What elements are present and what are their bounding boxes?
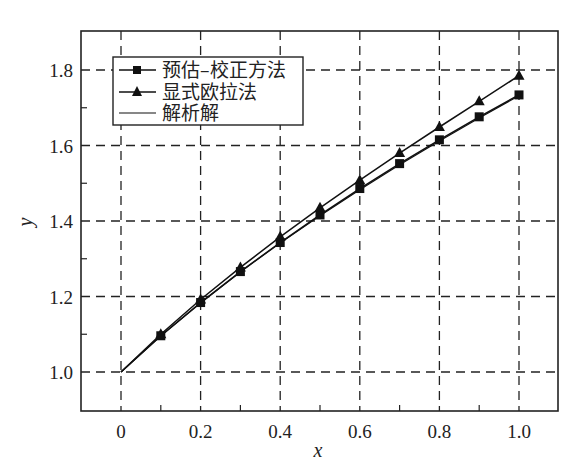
square-marker-icon — [133, 66, 141, 74]
x-tick-label: 0.8 — [428, 421, 452, 442]
legend-label: 预估–校正方法 — [162, 59, 286, 81]
x-tick-label: 1.0 — [507, 421, 531, 442]
line-chart: 00.20.40.60.81.0 1.01.21.41.61.8 x y 预估–… — [0, 0, 576, 471]
y-tick-label: 1.4 — [49, 211, 73, 232]
series-0 — [121, 90, 524, 372]
y-tick-label: 1.2 — [49, 287, 73, 308]
series-2 — [121, 96, 519, 372]
triangle-marker-icon — [394, 147, 405, 157]
y-tick-label: 1.6 — [49, 136, 73, 157]
y-tick-label: 1.8 — [49, 60, 73, 81]
triangle-marker-icon — [514, 70, 525, 80]
triangle-marker-icon — [354, 174, 365, 184]
y-tick-label: 1.0 — [49, 362, 73, 383]
x-tick-label: 0.6 — [348, 421, 372, 442]
legend-label: 解析解 — [162, 102, 219, 124]
x-tick-label: 0.4 — [268, 421, 292, 442]
x-tick-label: 0 — [116, 421, 126, 442]
triangle-marker-icon — [275, 231, 286, 241]
x-tick-labels: 00.20.40.60.81.0 — [116, 421, 531, 442]
x-tick-label: 0.2 — [189, 421, 213, 442]
triangle-marker-icon — [235, 261, 246, 271]
triangle-marker-icon — [315, 202, 326, 212]
x-axis-label: x — [313, 439, 323, 461]
triangle-marker-icon — [434, 121, 445, 131]
y-tick-labels: 1.01.21.41.61.8 — [49, 60, 73, 383]
triangle-marker-icon — [474, 95, 485, 105]
legend: 预估–校正方法 显式欧拉法 解析解 — [113, 57, 303, 125]
legend-label: 显式欧拉法 — [162, 81, 257, 103]
y-axis-label: y — [14, 217, 37, 228]
